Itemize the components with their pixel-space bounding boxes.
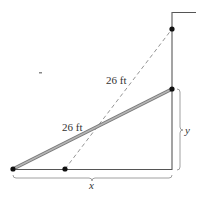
point-ladder-foot-original: [62, 166, 67, 171]
point-ladder-top-current: [169, 86, 174, 91]
label-ladder-original: 26 ft: [106, 74, 126, 86]
stray-mark: [39, 72, 42, 74]
y-brace: [177, 89, 183, 170]
point-ladder-foot-current: [10, 166, 15, 171]
ladder-diagram: 26 ft 26 ft x y: [0, 0, 203, 197]
label-x: x: [88, 179, 94, 191]
label-y: y: [184, 124, 190, 136]
point-ladder-top-original: [169, 26, 174, 31]
label-ladder-current: 26 ft: [62, 121, 82, 133]
ladder: [13, 89, 172, 169]
